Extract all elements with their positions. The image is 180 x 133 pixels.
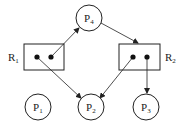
process-p3: P3: [133, 94, 159, 120]
resource-r1-label: R1: [8, 51, 19, 65]
process-p1: P1: [25, 94, 51, 120]
resource-r1-instance-1: [34, 54, 39, 59]
resource-r2: R2: [119, 44, 176, 70]
resource-allocation-graph: R1 R2 P4 P1 P2 P3: [0, 0, 180, 133]
process-p2: P2: [78, 94, 104, 120]
edge-r1-to-p2: [37, 57, 81, 98]
resource-r1-box: [24, 44, 64, 70]
resource-r2-instance-1: [130, 54, 135, 59]
resource-r2-box: [119, 44, 160, 70]
resource-r2-label: R2: [165, 51, 176, 65]
resource-r2-instance-2: [144, 54, 149, 59]
process-p4: P4: [76, 5, 102, 31]
edge-r1-to-p4: [51, 28, 79, 57]
edge-r2-to-p2: [100, 57, 133, 98]
resource-r1: R1: [8, 44, 64, 70]
resource-r1-instance-2: [48, 54, 53, 59]
edges: [37, 23, 147, 98]
edge-p4-to-r2: [101, 23, 138, 43]
